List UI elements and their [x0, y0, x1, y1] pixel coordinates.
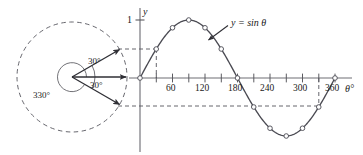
- data-point: [138, 76, 143, 81]
- x-tick-label-300: 300: [293, 84, 307, 94]
- x-tick-label-180: 180: [228, 84, 242, 94]
- data-point: [333, 76, 338, 81]
- upper-angle-arc: [92, 66, 95, 78]
- y-max-tick-label: 1: [127, 15, 132, 25]
- x-tick-label-240: 240: [260, 84, 274, 94]
- data-point: [154, 47, 159, 52]
- x-tick-label-360: 360: [325, 84, 339, 94]
- y-axis-label: y: [143, 7, 147, 17]
- data-point: [186, 18, 191, 23]
- x-tick-label-60: 60: [166, 84, 176, 94]
- curve-label-arrow: [209, 26, 229, 41]
- reflex-angle-label: 330°: [33, 91, 50, 100]
- data-point: [235, 76, 240, 81]
- lower-angle-label: 30°: [90, 81, 103, 90]
- sine-graph-figure: 330° 30° 30° y θ° 1 60 120 180 240 300 3…: [0, 0, 363, 155]
- sine-graph: [118, 8, 352, 152]
- upper-angle-label: 30°: [88, 57, 101, 66]
- data-point: [251, 105, 256, 110]
- unit-circle-diagram: [17, 22, 127, 132]
- x-tick-label-120: 120: [195, 84, 209, 94]
- curve-equation-label: y = sin θ: [231, 18, 266, 28]
- data-point: [170, 25, 175, 30]
- data-point: [300, 126, 305, 131]
- data-point: [284, 134, 289, 139]
- data-point: [316, 105, 321, 110]
- data-point: [219, 47, 224, 52]
- figure-canvas: [0, 0, 363, 155]
- data-point: [268, 126, 273, 131]
- data-point: [203, 25, 208, 30]
- x-axis-label: θ°: [345, 84, 354, 94]
